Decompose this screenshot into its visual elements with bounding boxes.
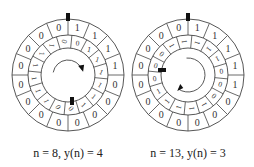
circular-diagram-n13: 11111000000000001110001111100011	[132, 13, 244, 131]
outer-bit: 1	[212, 30, 217, 41]
outer-bit: 0	[146, 43, 151, 54]
inner-bit: 1	[213, 54, 221, 64]
inner-bit: 1	[37, 52, 46, 56]
inner-bit: 1	[30, 76, 40, 82]
outer-bit: 0	[176, 22, 181, 33]
outer-bit: 0	[138, 60, 143, 71]
outer-bit: 0	[75, 117, 80, 128]
inner-bit: 1	[155, 86, 163, 96]
inner-bit: 0	[217, 80, 223, 90]
outer-bit: 0	[113, 79, 118, 90]
inner-bit: 0	[53, 103, 63, 111]
inner-bit: 1	[162, 97, 171, 106]
circular-diagram-n8: 11110000000000000111111001111110	[12, 13, 124, 131]
inner-bit: 0	[75, 39, 80, 48]
outer-bit: 0	[176, 117, 181, 128]
top-marker-icon	[186, 13, 190, 21]
outer-bit: 0	[138, 79, 143, 90]
outer-bit: 0	[159, 109, 164, 120]
inner-bit: 1	[167, 42, 177, 50]
outer-bit: 0	[39, 30, 44, 41]
outer-bit: 1	[233, 60, 238, 71]
inner-bit: 1	[174, 104, 184, 110]
inner-bit: 1	[98, 67, 105, 77]
inner-bit: 0	[158, 49, 167, 58]
outer-bit: 0	[159, 30, 164, 41]
inner-bit: 0	[66, 104, 76, 113]
outer-bit: 0	[105, 96, 110, 107]
outer-bit: 1	[75, 22, 80, 33]
inner-bit: 1	[33, 88, 43, 95]
ring-circle-2	[41, 48, 95, 102]
rotation-arrow-icon	[53, 60, 82, 72]
ring-circle-2	[161, 48, 215, 102]
inner-bit: 1	[96, 80, 104, 90]
outer-bit: 0	[56, 117, 61, 128]
inner-bit: 1	[193, 40, 203, 46]
inner-bit: 1	[204, 45, 213, 54]
inner-bit: 1	[180, 39, 189, 44]
inner-bit: 1	[79, 100, 88, 109]
outer-bit: 0	[212, 109, 217, 120]
inner-bit: 0	[60, 39, 70, 45]
inner-marker-icon	[158, 68, 166, 72]
outer-bit: 0	[146, 96, 151, 107]
outer-bit: 0	[18, 60, 23, 71]
outer-bit: 0	[26, 96, 31, 107]
inner-bit: 0	[152, 74, 157, 83]
inner-bit: 1	[187, 106, 196, 111]
inner-bit: 0	[210, 91, 219, 100]
outer-bit: 0	[225, 96, 230, 107]
outer-bit: 1	[233, 79, 238, 90]
inner-bit: 1	[31, 63, 40, 68]
inner-bit: 1	[94, 55, 101, 65]
inner-bit: 1	[42, 97, 52, 104]
outer-bit: 1	[195, 22, 200, 33]
outer-bit: 1	[113, 60, 118, 71]
inner-bit: 1	[86, 45, 92, 55]
outer-bit: 1	[225, 43, 230, 54]
outer-bit: 0	[26, 43, 31, 54]
ring-circle-1	[148, 35, 228, 115]
inner-marker-icon	[70, 97, 74, 105]
outer-bit: 0	[39, 109, 44, 120]
inner-bit: 1	[47, 43, 57, 48]
outer-bit: 0	[92, 109, 97, 120]
outer-bit: 1	[105, 43, 110, 54]
caption-left: n = 8, y(n) = 4	[33, 146, 103, 161]
outer-bit: 1	[92, 30, 97, 41]
caption-right: n = 13, y(n) = 3	[150, 146, 226, 161]
outer-bit: 0	[18, 79, 23, 90]
inner-bit: 1	[89, 92, 98, 102]
inner-bit: 0	[219, 67, 224, 76]
inner-bit: 1	[199, 100, 209, 108]
outer-bit: 0	[56, 22, 61, 33]
top-marker-icon	[66, 13, 70, 21]
outer-bit: 0	[195, 117, 200, 128]
diagram-canvas: 11110000000000000111111001111110 1111100…	[0, 0, 254, 167]
ring-circle-1	[28, 35, 108, 115]
